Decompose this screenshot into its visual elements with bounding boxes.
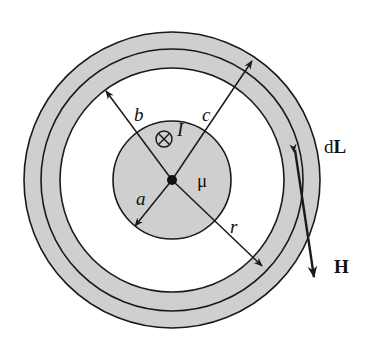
label-dL-d: d: [324, 136, 334, 157]
label-r: r: [230, 216, 238, 237]
label-H: H: [334, 256, 349, 277]
label-c: c: [202, 104, 211, 125]
label-dL: dL: [324, 136, 346, 157]
label-a: a: [136, 188, 146, 209]
label-permeability: μ: [197, 170, 207, 191]
label-dL-L: L: [334, 136, 347, 157]
center-dot: [167, 175, 177, 185]
label-b: b: [134, 104, 144, 125]
coax-diagram: b c I μ a r dL H: [0, 0, 375, 352]
